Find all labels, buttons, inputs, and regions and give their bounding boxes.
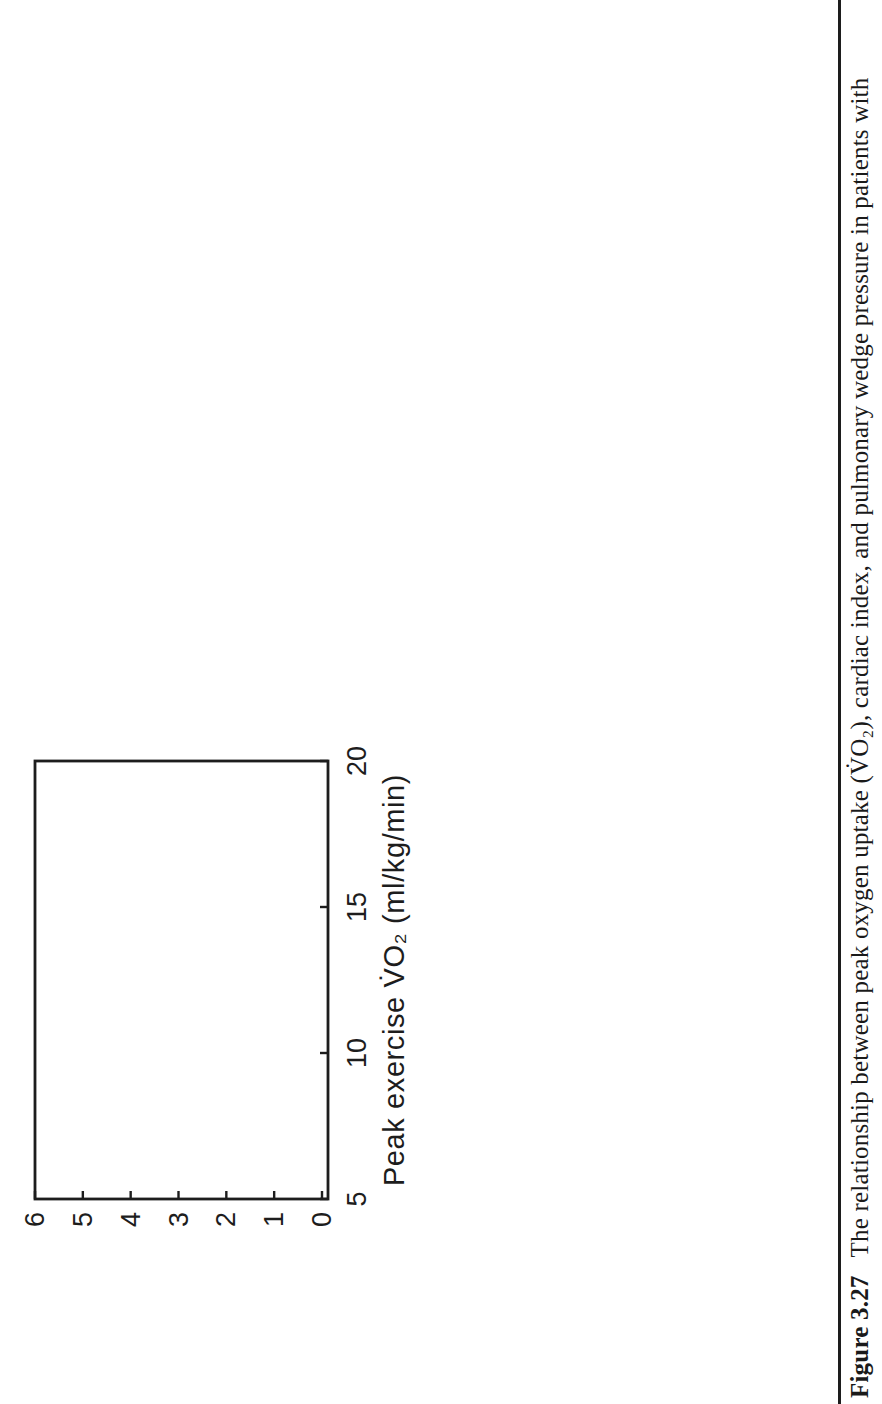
y-tick-label: 2 xyxy=(211,1212,241,1227)
scatter-plots-canvas: 51015200123456Peak exercise V̇O₂ (ml/kg/… xyxy=(0,0,882,1404)
figure-landscape: 51015200123456Peak exercise V̇O₂ (ml/kg/… xyxy=(0,0,882,1404)
y-tick-label: 3 xyxy=(164,1212,194,1227)
x-tick-label: 15 xyxy=(342,892,372,922)
figure-caption-text: The relationship between peak oxygen upt… xyxy=(846,78,873,1258)
figure-caption: Figure 3.27The relationship between peak… xyxy=(846,4,874,1398)
y-tick-label: 6 xyxy=(20,1212,50,1227)
plot-frame xyxy=(35,761,328,1199)
y-tick-label: 0 xyxy=(307,1212,337,1227)
x-tick-label: 20 xyxy=(342,746,372,776)
figure-caption-label: Figure 3.27 xyxy=(846,1275,873,1398)
y-tick-label: 4 xyxy=(116,1212,146,1227)
scanned-page: 51015200123456Peak exercise V̇O₂ (ml/kg/… xyxy=(0,0,882,1404)
caption-divider-rule xyxy=(838,0,841,1404)
scatter-plot-ci3: 51015200123456Peak exercise V̇O₂ (ml/kg/… xyxy=(20,746,410,1227)
x-tick-label: 5 xyxy=(342,1191,372,1206)
x-tick-label: 10 xyxy=(342,1038,372,1068)
y-tick-label: 5 xyxy=(68,1212,98,1227)
x-axis-title: Peak exercise V̇O₂ (ml/kg/min) xyxy=(378,774,410,1186)
y-tick-label: 1 xyxy=(259,1212,289,1227)
